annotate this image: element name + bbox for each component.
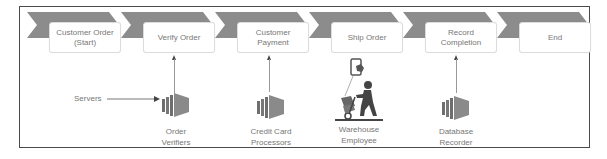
stage-box: Customer Order(Start) <box>49 22 121 53</box>
stage-label-sub: Completion <box>441 38 481 47</box>
server-stack-icon <box>161 90 191 120</box>
warehouse-worker-with-phone-icon <box>331 58 387 124</box>
connector-processors <box>269 59 270 92</box>
stage-box: RecordCompletion <box>425 22 497 53</box>
stage-label: Record <box>448 28 474 37</box>
stage-label-sub: Payment <box>257 38 289 47</box>
stage-record-completion: RecordCompletion <box>403 12 495 52</box>
stage-ship-order: Ship Order <box>309 12 401 52</box>
actor-label: OrderVerifiers <box>151 126 201 148</box>
actor-label: DatabaseRecorder <box>430 126 482 148</box>
actor-label: WarehouseEmployee <box>331 124 387 146</box>
server-stack-icon <box>256 92 286 122</box>
stage-customer-payment: CustomerPayment <box>215 12 307 52</box>
stage-box: Ship Order <box>331 22 403 53</box>
stage-box: CustomerPayment <box>237 22 309 53</box>
stage-label-sub: (Start) <box>74 38 96 47</box>
connector-recorder <box>456 59 457 93</box>
server-stack-icon <box>441 93 471 123</box>
stage-customer-order: Customer Order(Start) <box>27 12 119 52</box>
stage-label: End <box>548 33 562 43</box>
stage-label: Customer <box>256 28 291 37</box>
actor-label: Credit CardProcessors <box>241 126 301 148</box>
stage-label: Customer Order <box>56 28 113 37</box>
servers-label: Servers <box>74 93 102 104</box>
stage-box: End <box>519 22 591 53</box>
stage-end: End <box>497 12 589 52</box>
stage-box: Verify Order <box>143 22 215 53</box>
connector-verifiers <box>174 59 175 93</box>
stage-label: Ship Order <box>348 33 387 43</box>
stage-label: Verify Order <box>158 33 201 43</box>
servers-arrow <box>107 95 161 103</box>
stage-verify-order: Verify Order <box>121 12 213 52</box>
